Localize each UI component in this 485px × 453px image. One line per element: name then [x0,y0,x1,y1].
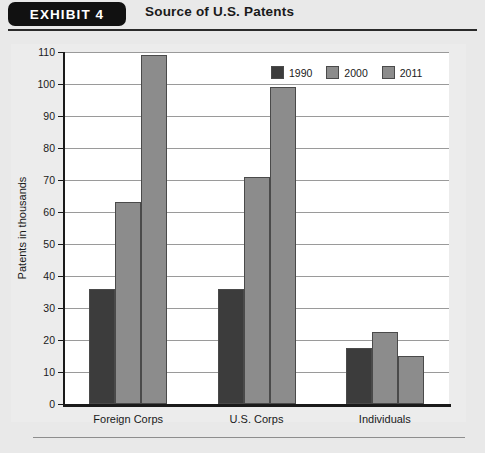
y-tick-mark [58,244,64,245]
y-tick-mark [58,340,64,341]
exhibit-title: Source of U.S. Patents [145,4,294,19]
y-tick-label: 90 [43,110,55,122]
y-tick-mark [58,372,64,373]
y-tick-label: 30 [43,302,55,314]
legend-item-2011[interactable]: 2011 [382,66,423,79]
bar-2011-individuals[interactable] [398,356,424,404]
legend-item-2000[interactable]: 2000 [326,66,367,79]
chart-frame: 199020002011 0102030405060708090100110 P… [11,44,466,422]
y-tick-mark [58,84,64,85]
plot-area: 199020002011 [64,52,449,404]
bar-1990-individuals[interactable] [346,348,372,404]
y-tick-mark [58,404,64,405]
bar-2011-u-s-corps[interactable] [270,87,296,404]
bar-1990-foreign-corps[interactable] [89,289,115,404]
legend-swatch-1990 [271,66,284,79]
y-tick-label: 110 [38,46,55,58]
x-axis-label-u-s-corps: U.S. Corps [230,413,284,425]
y-tick-label: 70 [43,174,55,186]
bar-2011-foreign-corps[interactable] [141,55,167,404]
y-tick-mark [58,308,64,309]
y-tick-label: 60 [43,206,55,218]
legend-item-1990[interactable]: 1990 [271,66,312,79]
legend-label-1990: 1990 [289,67,312,79]
y-tick-label: 100 [37,78,55,90]
y-tick-label: 0 [49,398,55,410]
bar-group [89,52,167,404]
bar-group [346,52,424,404]
plot-container: 199020002011 0102030405060708090100110 P… [64,52,449,420]
bar-2000-foreign-corps[interactable] [115,202,141,404]
legend-swatch-2011 [382,66,395,79]
y-tick-mark [58,148,64,149]
y-axis-label: Patents in thousands [16,177,28,280]
x-axis-line [63,404,451,407]
legend-label-2011: 2011 [400,67,423,79]
legend-label-2000: 2000 [344,67,367,79]
y-tick-label: 40 [43,270,55,282]
y-tick-label: 80 [43,142,55,154]
exhibit-number-tab: EXHIBIT 4 [8,2,126,26]
y-tick-mark [58,116,64,117]
bar-1990-u-s-corps[interactable] [218,289,244,404]
y-tick-label: 10 [43,366,55,378]
bar-2000-individuals[interactable] [372,332,398,404]
chart-legend: 199020002011 [264,62,429,83]
y-tick-label: 50 [43,238,55,250]
x-axis-label-individuals: Individuals [359,413,411,425]
bar-group [218,52,296,404]
y-tick-mark [58,180,64,181]
y-tick-mark [58,212,64,213]
header-divider [8,29,477,31]
legend-swatch-2000 [326,66,339,79]
footer-divider [33,437,465,438]
x-axis-label-foreign-corps: Foreign Corps [93,413,163,425]
y-tick-label: 20 [43,334,55,346]
exhibit-header: EXHIBIT 4 Source of U.S. Patents [0,0,485,30]
y-tick-mark [58,276,64,277]
bar-2000-u-s-corps[interactable] [244,177,270,404]
y-axis-line [63,52,65,405]
y-tick-mark [58,52,64,53]
